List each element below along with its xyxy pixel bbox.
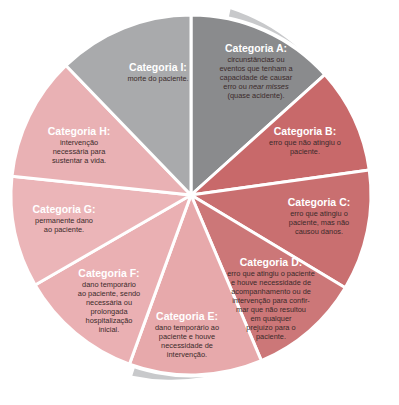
category-a-line: eventos que tenham a	[219, 64, 292, 73]
category-d-line: paciente.	[256, 332, 286, 341]
category-h-label: Categoria H: intervenção necessária para…	[48, 125, 110, 165]
category-e-line: necessidade de	[161, 341, 213, 350]
category-d-line: mar que não resultou	[236, 305, 306, 314]
category-c-label: Categoria C: erro que atingiu o paciente…	[288, 196, 350, 236]
category-c-title: Categoria C:	[288, 196, 350, 209]
category-i-line: morte do paciente.	[127, 74, 188, 83]
category-d-title: Categoria D:	[227, 256, 315, 269]
category-f-line: ao paciente, sendo	[78, 289, 140, 298]
category-e-label: Categoria E: dano temporário ao paciente…	[155, 310, 219, 359]
category-g-label: Categoria G: permanente dano ao paciente…	[32, 203, 95, 234]
category-g-title: Categoria G:	[32, 203, 95, 216]
category-f-description: dano temporário ao paciente, sendo neces…	[78, 280, 140, 334]
category-c-line: causou danos.	[295, 227, 343, 236]
category-a-description: circunstâncias ou eventos que tenham a c…	[219, 55, 292, 100]
category-h-line: intervenção	[60, 138, 98, 147]
category-a-label: Categoria A: circunstâncias ou eventos q…	[219, 42, 292, 100]
category-f-line: prolongada	[91, 307, 128, 316]
category-d-line: prejuízo para o	[246, 323, 295, 332]
category-a-line: circunstâncias ou	[227, 55, 284, 64]
near-misses-term: near misses	[249, 82, 289, 91]
category-d-line: em qualquer	[250, 314, 291, 323]
category-g-line: ao paciente.	[44, 225, 84, 234]
category-e-line: paciente e houve	[159, 332, 215, 341]
category-c-description: erro que atingiu o paciente, mas não cau…	[288, 209, 350, 236]
category-d-line: erro que atingiu o paciente	[227, 269, 315, 278]
category-e-description: dano temporário ao paciente e houve nece…	[155, 323, 219, 359]
category-b-title: Categoria B:	[269, 125, 341, 138]
category-c-line: erro que atingiu o	[290, 209, 348, 218]
category-b-label: Categoria B: erro que não atingiu o paci…	[269, 125, 341, 156]
category-e-line: intervenção.	[167, 350, 207, 359]
category-d-line: e houve necessidade de	[231, 278, 311, 287]
category-f-line: hospitalização	[86, 316, 133, 325]
category-h-line: sustentar a vida.	[52, 156, 106, 165]
category-h-title: Categoria H:	[48, 125, 110, 138]
category-a-title: Categoria A:	[219, 42, 292, 55]
category-a-line: capacidade de causar	[220, 73, 292, 82]
category-g-line: permanente dano	[35, 216, 93, 225]
category-e-title: Categoria E:	[155, 310, 219, 323]
category-a-line: (quase acidente).	[227, 91, 284, 100]
category-i-description: morte do paciente.	[127, 74, 188, 83]
category-f-title: Categoria F:	[78, 267, 140, 280]
error-category-wheel: Categoria A: circunstâncias ou eventos q…	[0, 0, 399, 405]
category-g-description: permanente dano ao paciente.	[32, 216, 95, 234]
category-e-line: dano temporário ao	[155, 323, 219, 332]
category-a-line: erro ou near misses	[223, 82, 288, 91]
category-c-line: paciente, mas não	[289, 218, 349, 227]
category-d-description: erro que atingiu o paciente e houve nece…	[227, 269, 315, 341]
category-b-line: erro que não atingiu o	[269, 138, 341, 147]
category-f-label: Categoria F: dano temporário ao paciente…	[78, 267, 140, 334]
category-d-line: acompanhamento ou de	[231, 287, 311, 296]
category-h-description: intervenção necessária para sustentar a …	[48, 138, 110, 165]
category-h-line: necessária para	[53, 147, 106, 156]
category-f-line: necessária ou	[86, 298, 132, 307]
category-b-description: erro que não atingiu o paciente.	[269, 138, 341, 156]
category-f-line: dano temporário	[82, 280, 136, 289]
category-d-line: intervenção para confir-	[232, 296, 310, 305]
category-f-line: inicial.	[99, 325, 120, 334]
category-i-title: Categoria I:	[127, 61, 188, 74]
category-b-line: paciente.	[290, 147, 320, 156]
category-d-label: Categoria D: erro que atingiu o paciente…	[227, 256, 315, 341]
category-i-label: Categoria I: morte do paciente.	[127, 61, 188, 83]
